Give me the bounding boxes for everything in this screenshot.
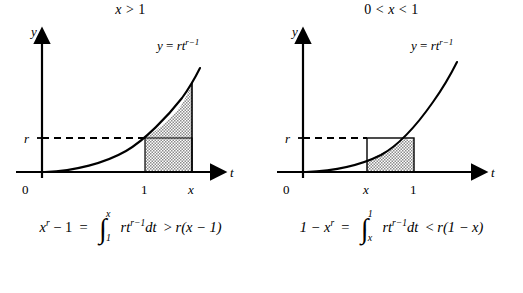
panel-title-left-rel: >: [122, 2, 138, 17]
tick-label-b-right: 1: [410, 182, 417, 197]
eq-right-integrand-exp: r−1: [392, 218, 407, 228]
math-figure: x > 1: [0, 0, 523, 293]
panel-title-right-rel1: <: [372, 2, 388, 17]
equation-left: xr − 1 = ∫ x 1 rtr−1dt > r(x − 1): [0, 218, 261, 236]
curve-right: [306, 62, 457, 172]
panel-title-left: x > 1: [0, 2, 261, 18]
eq-left-differential: dt: [145, 219, 156, 235]
equation-right: 1 − xr = ∫ 1 x rtr−1dt < r(1 − x): [261, 218, 522, 236]
curve-label-right-eq: =: [417, 38, 431, 53]
eq-right-int-lower: x: [368, 232, 372, 243]
tick-label-b-left: x: [187, 182, 194, 197]
eq-right-relation: <: [425, 219, 433, 235]
eq-left-integrand-exp: r−1: [130, 218, 145, 228]
panel-x-between-0-and-1: 0 < x < 1: [261, 0, 522, 293]
curve-label-left-exp: r−1: [185, 37, 199, 47]
panel-title-right: 0 < x < 1: [261, 2, 522, 18]
shaded-area-right: [367, 138, 414, 172]
eq-right-integrand-coef: rt: [382, 219, 392, 235]
eq-left-integrand-coef: rt: [121, 219, 131, 235]
eq-left-int-upper: x: [106, 208, 110, 219]
tick-label-level-left: r: [24, 131, 30, 146]
eq-right-lhs-exp: r: [330, 218, 334, 228]
panel-title-left-num: 1: [138, 2, 146, 17]
eq-right-int-upper: 1: [368, 208, 373, 219]
eq-left-lhs-rest: − 1: [50, 219, 73, 235]
eq-right-equals: =: [341, 219, 349, 235]
curve-label-left: y = rtr−1: [155, 37, 199, 53]
plot-left: y t 0 r 1 x y = rtr−1: [0, 18, 261, 208]
panel-title-right-rel2: <: [395, 2, 411, 17]
tick-label-a-right: x: [362, 182, 369, 197]
eq-right-differential: dt: [407, 219, 418, 235]
panel-title-right-var: x: [388, 2, 395, 17]
tick-label-origin-left: 0: [22, 182, 29, 197]
curve-label-right-exp: r−1: [439, 37, 453, 47]
panel-title-right-lo: 0: [364, 2, 372, 17]
y-axis-label-right: y: [290, 24, 298, 39]
eq-left-rhs: r(x − 1): [175, 219, 221, 235]
panel-title-right-num: 1: [411, 2, 419, 17]
y-axis-label-left: y: [29, 24, 37, 39]
curve-label-right: y = rtr−1: [409, 37, 453, 53]
eq-left-equals: =: [80, 219, 88, 235]
plot-right: y t 0 r x 1 y = rtr−1: [261, 18, 522, 208]
eq-right-rhs: r(1 − x): [437, 219, 483, 235]
curve-label-left-eq: =: [163, 38, 177, 53]
t-axis-label-left: t: [230, 165, 234, 180]
tick-label-level-right: r: [285, 131, 291, 146]
tick-label-origin-right: 0: [283, 182, 290, 197]
tick-label-a-left: 1: [141, 182, 148, 197]
panel-title-left-var: x: [115, 2, 122, 17]
eq-left-int-lower: 1: [106, 232, 111, 243]
eq-left-relation: >: [164, 219, 172, 235]
eq-right-lhs-base: 1 − x: [300, 219, 331, 235]
panel-x-greater-than-1: x > 1: [0, 0, 261, 293]
t-axis-label-right: t: [491, 165, 495, 180]
eq-right-integral: ∫ 1 x: [357, 221, 379, 236]
eq-left-integral: ∫ x 1: [95, 221, 117, 236]
